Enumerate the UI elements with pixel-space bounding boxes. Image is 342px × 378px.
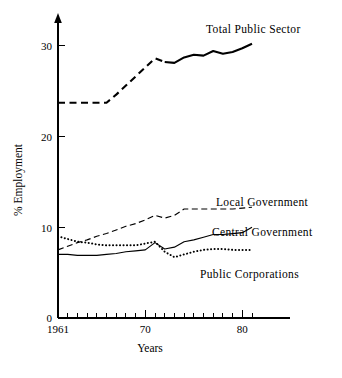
label-total-public-sector: Total Public Sector xyxy=(206,23,301,35)
label-public-corporations: Public Corporations xyxy=(200,268,299,281)
y-axis-title: % Employment xyxy=(12,143,25,216)
y-tick-label-10: 10 xyxy=(41,222,53,234)
chart-container: 30 20 10 0 % Employment xyxy=(0,0,342,378)
series-total-public-sector-solid xyxy=(165,44,252,63)
y-tick-label-20: 20 xyxy=(41,131,53,143)
x-tick-label-70: 70 xyxy=(140,323,152,335)
line-chart: 30 20 10 0 % Employment xyxy=(0,0,342,378)
x-tick-label-1961: 1961 xyxy=(47,323,69,335)
y-tick-label-30: 30 xyxy=(41,40,53,52)
x-tick-label-80: 80 xyxy=(237,323,249,335)
series-annotations: Total Public Sector Local Government Cen… xyxy=(200,23,313,281)
y-axis: 30 20 10 0 % Employment xyxy=(12,13,65,324)
y-axis-arrow-icon xyxy=(54,13,62,23)
series-total-public-sector-dashed xyxy=(58,58,165,102)
label-local-government: Local Government xyxy=(216,196,309,208)
x-axis: 1961 70 80 Years xyxy=(47,310,290,354)
x-axis-title: Years xyxy=(137,342,163,354)
label-central-government: Central Government xyxy=(212,226,313,238)
